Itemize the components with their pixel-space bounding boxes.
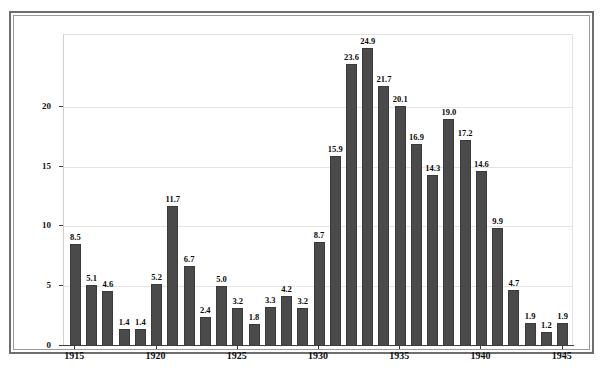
bar-value-label: 6.7 <box>176 255 202 264</box>
y-axis-tick-mark <box>59 285 63 286</box>
bar <box>460 140 471 346</box>
bar-value-label: 16.9 <box>403 133 429 142</box>
bar-value-label: 3.2 <box>225 297 251 306</box>
y-axis-tick-mark <box>59 225 63 226</box>
bar-value-label: 4.6 <box>95 280 121 289</box>
x-axis-tick-mark <box>156 345 157 349</box>
bar-value-label: 8.7 <box>306 231 332 240</box>
y-axis-tick-label: 20 <box>29 102 51 111</box>
x-axis-tick-label: 1920 <box>136 351 176 361</box>
x-axis-tick-label: 1930 <box>298 351 338 361</box>
bar-value-label: 3.2 <box>290 297 316 306</box>
bar <box>135 329 146 346</box>
x-axis-tick-mark <box>318 345 319 349</box>
x-axis-tick-label: 1935 <box>379 351 419 361</box>
bar-value-label: 1.4 <box>127 318 153 327</box>
bar-value-label: 21.7 <box>371 75 397 84</box>
y-axis-tick-mark <box>59 166 63 167</box>
chart-figure: 8.55.14.61.41.45.211.76.72.45.03.21.83.3… <box>0 0 610 382</box>
bar <box>476 171 487 346</box>
y-axis-tick-label: 10 <box>29 221 51 230</box>
x-axis-tick-mark <box>74 345 75 349</box>
bar-value-label: 24.9 <box>355 37 381 46</box>
bar-value-label: 3.3 <box>257 296 283 305</box>
bar-value-label: 9.9 <box>485 217 511 226</box>
bar-value-label: 14.6 <box>468 160 494 169</box>
y-axis-tick-label: 15 <box>29 162 51 171</box>
bar <box>541 332 552 346</box>
y-axis-tick-mark <box>59 106 63 107</box>
bar <box>314 242 325 346</box>
bar <box>297 308 308 346</box>
bar-value-label: 19.0 <box>436 108 462 117</box>
bar-value-label: 14.3 <box>420 164 446 173</box>
y-axis-tick-label: 5 <box>29 281 51 290</box>
bar <box>362 48 373 346</box>
bar <box>265 307 276 346</box>
x-axis-tick-mark <box>480 345 481 349</box>
bar <box>427 175 438 346</box>
bar <box>330 156 341 346</box>
bar-value-label: 15.9 <box>322 145 348 154</box>
bar <box>119 329 130 346</box>
bar <box>216 286 227 346</box>
bar <box>70 244 81 346</box>
bar-value-label: 4.2 <box>274 285 300 294</box>
bar <box>249 324 260 346</box>
gridline <box>64 107 572 108</box>
x-axis-tick-label: 1915 <box>54 351 94 361</box>
plot-area: 8.55.14.61.41.45.211.76.72.45.03.21.83.3… <box>63 34 573 345</box>
y-axis-tick-label: 0 <box>29 341 51 350</box>
gridline <box>64 167 572 168</box>
bar <box>411 144 422 346</box>
x-axis-tick-mark <box>237 345 238 349</box>
bar-value-label: 11.7 <box>160 195 186 204</box>
bar-value-label: 2.4 <box>192 306 218 315</box>
bar-value-label: 1.2 <box>533 321 559 330</box>
bar <box>378 86 389 346</box>
x-axis-tick-mark <box>399 345 400 349</box>
x-axis-tick-mark <box>562 345 563 349</box>
bar-value-label: 4.7 <box>501 279 527 288</box>
x-axis-tick-label: 1940 <box>460 351 500 361</box>
x-axis-tick-label: 1925 <box>217 351 257 361</box>
bar <box>346 64 357 346</box>
bar <box>86 285 97 346</box>
y-axis-tick-mark <box>59 345 63 346</box>
bar-value-label: 17.2 <box>452 129 478 138</box>
bar-value-label: 8.5 <box>62 233 88 242</box>
bar <box>443 119 454 346</box>
bar-value-label: 5.2 <box>144 273 170 282</box>
bar-value-label: 23.6 <box>338 53 364 62</box>
bar <box>200 317 211 346</box>
bar-value-label: 5.0 <box>209 275 235 284</box>
bar <box>151 284 162 346</box>
bar-value-label: 1.9 <box>550 312 576 321</box>
x-axis-tick-label: 1945 <box>542 351 582 361</box>
bar-value-label: 1.8 <box>241 313 267 322</box>
bar-value-label: 20.1 <box>387 95 413 104</box>
